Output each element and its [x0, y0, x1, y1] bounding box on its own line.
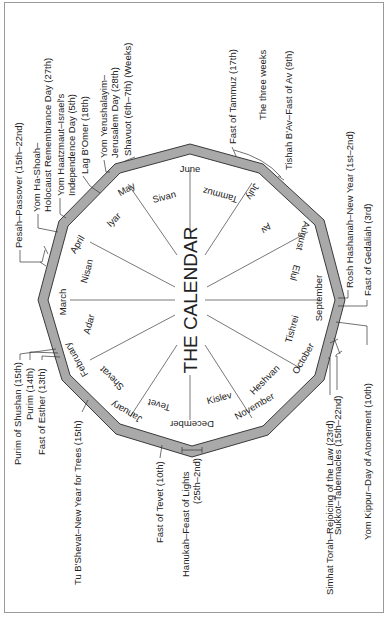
- holiday-tishah-bav: Tishah B'Av–Fast of Av (9th): [283, 51, 294, 170]
- holiday-rosh-hashanah: Rosh Hashanah–New Year (1st–2nd): [344, 131, 355, 288]
- holiday-yom-yerushalayim-line1: Yom Yerushalayim–: [98, 74, 109, 158]
- holiday-three-weeks: The three weeks: [257, 50, 268, 120]
- month-june: June: [180, 163, 201, 174]
- calendar-title: THE CALENDAR: [180, 227, 201, 374]
- holiday-yom-hashoah-line1: Yom Ha-Shoah–: [31, 142, 42, 212]
- holiday-purim-shushan: Purim of Shushan (15th): [12, 362, 23, 465]
- holiday-yom-haatzmaut-line2: Independence Day (5th): [66, 94, 77, 196]
- holiday-yom-hashoah-line2: Holocaust Remembrance Day (27th): [42, 58, 53, 212]
- holiday-fast-of-gedaliah: Fast of Gedaliah (3rd): [362, 204, 373, 296]
- holiday-lag-bomer: Lag B'Omer (18th): [79, 96, 90, 174]
- holiday-yom-haatzmaut-line1: Yom Haatzmaut–Israel's: [55, 93, 66, 196]
- month-december: December: [170, 419, 214, 430]
- holiday-simhat-torah: Simhat Torah–Rejoicing of the Law (23rd): [324, 420, 335, 595]
- calendar-diagram: THE CALENDAR June July August September …: [0, 0, 388, 617]
- holiday-fast-of-tammuz: Fast of Tammuz (17th): [227, 49, 238, 144]
- holiday-purim: Purim (14th): [24, 368, 35, 420]
- holiday-yom-yerushalayim-line2: Jerusalem Day (28th): [109, 67, 120, 158]
- holiday-shavuot: Shavuot (6th–7th) (Weeks): [122, 43, 133, 156]
- holiday-pesah: Pesah–Passover (15th–22nd): [13, 122, 24, 248]
- month-september: September: [313, 275, 324, 321]
- holiday-hanukah-line2: (25th–2nd): [191, 458, 202, 504]
- holiday-yom-kippur: Yom Kippur–Day of Atonement (10th): [362, 383, 373, 540]
- holiday-fast-of-tevet: Fast of Tevet (10th): [154, 461, 165, 543]
- month-march: March: [57, 289, 68, 315]
- holiday-fast-of-esther: Fast of Esther (13th): [36, 368, 47, 455]
- holiday-hanukah-line1: Hanukah–Feast of Lights: [180, 471, 191, 577]
- holiday-tu-bshevat: Tu B'Shevat–New Year for Trees (15th): [72, 420, 83, 585]
